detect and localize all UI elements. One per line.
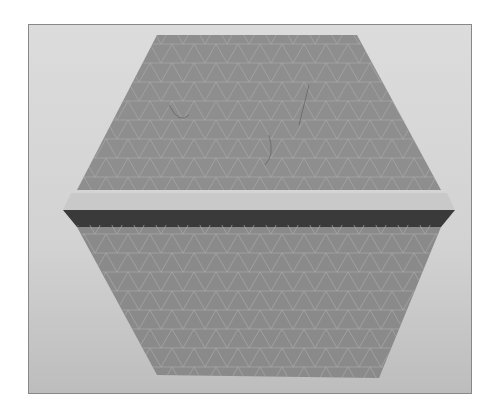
photograph (28, 24, 472, 394)
folded-paper-hexagon (29, 25, 471, 393)
